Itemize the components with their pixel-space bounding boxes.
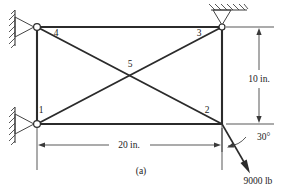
node-label-4: 4 xyxy=(54,28,59,38)
truss-diagram-canvas: 1 2 3 4 5 10 in. 20 in. xyxy=(0,0,290,190)
joint-node-3 xyxy=(219,24,225,30)
dimension-horizontal: 20 in. xyxy=(37,128,222,170)
arrowhead-left-icon xyxy=(38,142,45,147)
arrowhead-right-icon xyxy=(214,142,221,147)
dimension-label-horizontal: 20 in. xyxy=(118,140,140,150)
support-bottom-left xyxy=(9,107,34,145)
node-label-3: 3 xyxy=(197,28,202,38)
arrowhead-down-icon xyxy=(256,116,261,123)
node-label-1: 1 xyxy=(39,105,44,115)
node-label-5: 5 xyxy=(128,59,133,69)
truss-members xyxy=(37,27,222,124)
applied-load: 30° 9000 lb xyxy=(222,124,273,186)
hatching-bottom-left xyxy=(9,107,15,145)
arrowhead-up-icon xyxy=(256,28,261,35)
pin-triangle-bottom-left xyxy=(15,114,34,134)
support-top-right xyxy=(209,4,248,25)
hatching-top-left xyxy=(9,10,15,48)
figure-caption: (a) xyxy=(136,166,147,177)
truss-figure: 1 2 3 4 5 10 in. 20 in. xyxy=(0,0,290,190)
dimension-label-vertical: 10 in. xyxy=(248,74,270,84)
joint-node-1 xyxy=(34,121,41,128)
joint-node-4 xyxy=(34,24,41,31)
dimension-vertical: 10 in. xyxy=(226,27,274,124)
pin-triangle-top-right xyxy=(213,10,231,25)
load-arrowhead-icon xyxy=(241,159,251,173)
pin-triangle-top-left xyxy=(15,17,34,37)
node-label-2: 2 xyxy=(205,105,210,115)
hatching-top-right xyxy=(209,4,248,10)
angle-arc-arrowhead-icon xyxy=(227,143,234,148)
support-top-left xyxy=(9,10,34,48)
load-magnitude-label: 9000 lb xyxy=(244,176,273,186)
load-angle-label: 30° xyxy=(257,132,271,142)
